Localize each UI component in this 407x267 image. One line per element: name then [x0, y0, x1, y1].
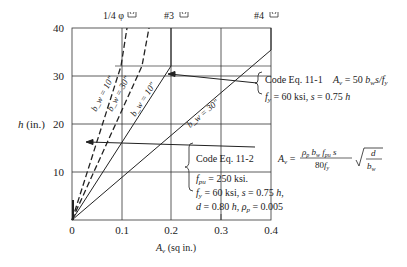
eq11-2-sqrt-num: d	[371, 148, 376, 158]
x-axis: 0 0.1 0.2 0.3 0.4	[69, 224, 278, 236]
eq11-2-fy: fy = 60 ksi, s = 0.75 h,	[196, 187, 284, 200]
eq11-2-d: d = 0.80 h, ρp = 0.005	[196, 201, 283, 214]
eq11-2-fpu: fpu = 250 ksi.	[196, 173, 248, 186]
eq11-1-title: Code Eq. 11-1	[265, 74, 323, 85]
x-tick-0.2: 0.2	[164, 224, 178, 236]
eq11-2-numerator: ρp bw fpu s	[301, 147, 337, 158]
annotation-eq11-1: Code Eq. 11-1 Av = 50 bws/fy fy = 60 ksi…	[265, 74, 388, 104]
stirrup-icon	[128, 12, 136, 17]
y-tick-40: 40	[53, 22, 65, 34]
y-tick-30: 30	[53, 70, 65, 82]
y-axis-label: h (in.)	[18, 118, 45, 131]
label-quarter-phi: 1/4 φ	[103, 10, 124, 21]
label-bw30-solid: b_w = 30"	[185, 97, 221, 129]
eq11-1-formula: Av = 50 bws/fy	[332, 74, 388, 87]
x-tick-0.4: 0.4	[264, 224, 278, 236]
stirrup-icon	[180, 12, 188, 17]
annotation-eq11-2: Code Eq. 11-2 Av = ρp bw fpu s 80fy d bw…	[196, 147, 383, 214]
eq11-2-denominator: 80fy	[315, 160, 330, 171]
brace-eq11-2	[185, 143, 193, 191]
label-no4: #4	[254, 10, 264, 21]
eq11-2-lhs: Av =	[277, 153, 296, 166]
chart: 40 30 20 10 h (in.) 0 0.1 0.2 0.3 0.4 Av…	[0, 0, 407, 267]
x-tick-0: 0	[69, 224, 75, 236]
x-tick-0.3: 0.3	[214, 224, 228, 236]
stirrup-icon	[270, 12, 278, 17]
y-tick-10: 10	[53, 166, 65, 178]
label-no3: #3	[164, 10, 174, 21]
brace-eq11-1	[255, 72, 262, 94]
y-tick-20: 20	[53, 118, 65, 130]
eq11-1-params: fy = 60 ksi, s = 0.75 h	[265, 91, 350, 104]
eq11-2-title: Code Eq. 11-2	[196, 153, 254, 164]
eq11-2-sqrt-den: bw	[367, 161, 376, 172]
line-labels: b_w = 10" b_w = 30" b_w = 10" b_w = 30"	[89, 74, 221, 129]
x-tick-0.1: 0.1	[115, 224, 129, 236]
x-axis-label: Av (sq in.)	[155, 242, 196, 255]
y-axis: 40 30 20 10	[53, 22, 65, 178]
bar-size-labels: 1/4 φ #3 #4	[103, 10, 278, 21]
